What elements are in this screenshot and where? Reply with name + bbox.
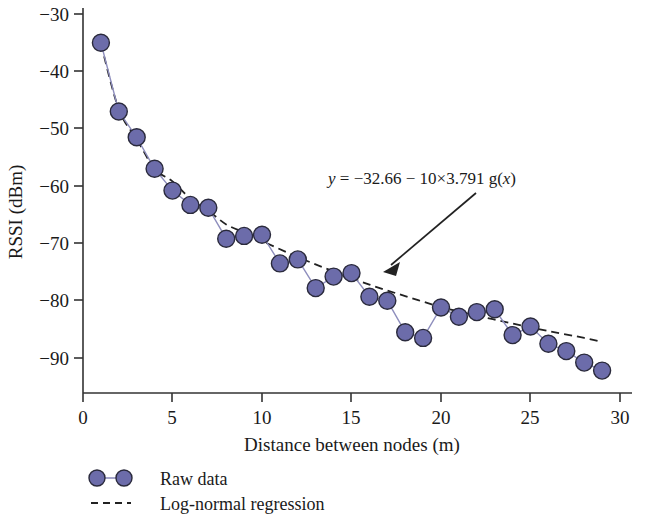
x-axis-title-text: Distance between nodes (m) bbox=[244, 434, 460, 456]
data-point bbox=[361, 288, 378, 305]
legend-label-log-normal-regression: Log-normal regression bbox=[160, 494, 324, 514]
regression-equation-label: y = −32.66 − 10×3.791 g(x) bbox=[326, 169, 516, 188]
x-tick-label: 10 bbox=[253, 407, 272, 428]
data-point bbox=[379, 292, 396, 309]
data-point bbox=[343, 265, 360, 282]
y-axis-title-text: RSSI (dBm) bbox=[5, 165, 27, 260]
raw-data-markers bbox=[92, 34, 610, 379]
data-point bbox=[433, 299, 450, 316]
x-tick-label: 0 bbox=[78, 407, 88, 428]
y-axis: −30 −40 −50 −60 −70 −80 −90 bbox=[39, 4, 83, 393]
x-axis: 0 5 10 15 20 25 30 Distance between node… bbox=[78, 393, 632, 456]
data-point bbox=[504, 327, 521, 344]
data-point bbox=[307, 280, 324, 297]
rssi-distance-plot: RSSI (dBm) −30 −40 −50 −60 −70 −80 −90 0 bbox=[0, 0, 656, 522]
data-point bbox=[558, 343, 575, 360]
x-tick-label: 15 bbox=[342, 407, 361, 428]
data-point bbox=[486, 301, 503, 318]
data-point bbox=[325, 268, 342, 285]
data-point bbox=[540, 335, 557, 352]
chart-figure: RSSI (dBm) −30 −40 −50 −60 −70 −80 −90 0 bbox=[0, 0, 656, 522]
legend-marker-circle bbox=[116, 470, 132, 486]
legend-item-raw-data: Raw data bbox=[89, 469, 227, 489]
data-point bbox=[182, 196, 199, 213]
data-point bbox=[415, 329, 432, 346]
x-tick-label: 25 bbox=[521, 407, 540, 428]
legend-label-raw-data: Raw data bbox=[160, 469, 227, 489]
x-tick-label: 5 bbox=[167, 407, 177, 428]
annotation-arrow bbox=[383, 193, 476, 276]
equation-close-paren: ) bbox=[510, 169, 516, 188]
equation-y-symbol: y bbox=[326, 169, 336, 188]
data-point bbox=[594, 362, 611, 379]
equation-body: = −32.66 − 10×3.791 g( bbox=[336, 169, 504, 188]
data-point bbox=[200, 199, 217, 216]
x-tick-label: 30 bbox=[611, 407, 630, 428]
arrow-shaft bbox=[391, 193, 476, 265]
y-tick-label: −70 bbox=[39, 233, 69, 254]
y-tick-label: −30 bbox=[39, 4, 69, 25]
data-point bbox=[110, 103, 127, 120]
y-tick-label: −50 bbox=[39, 118, 69, 139]
data-point bbox=[164, 182, 181, 199]
data-point bbox=[92, 34, 109, 51]
data-point bbox=[468, 304, 485, 321]
y-tick-label: −40 bbox=[39, 61, 69, 82]
data-point bbox=[218, 230, 235, 247]
y-axis-title: RSSI (dBm) bbox=[5, 165, 27, 260]
y-tick-label: −80 bbox=[39, 290, 69, 311]
y-tick-label: −60 bbox=[39, 176, 69, 197]
data-point bbox=[397, 324, 414, 341]
legend-marker-circle bbox=[89, 470, 105, 486]
legend-item-log-normal-regression: Log-normal regression bbox=[91, 494, 324, 514]
y-tick-label: −90 bbox=[39, 348, 69, 369]
data-point bbox=[254, 226, 271, 243]
chart-legend: Raw data Log-normal regression bbox=[89, 469, 324, 514]
x-tick-label: 20 bbox=[432, 407, 451, 428]
data-point bbox=[522, 318, 539, 335]
data-point bbox=[236, 227, 253, 244]
data-point bbox=[128, 129, 145, 146]
data-point bbox=[576, 354, 593, 371]
data-point bbox=[271, 255, 288, 272]
data-point bbox=[450, 308, 467, 325]
data-point bbox=[146, 160, 163, 177]
data-point bbox=[289, 251, 306, 268]
